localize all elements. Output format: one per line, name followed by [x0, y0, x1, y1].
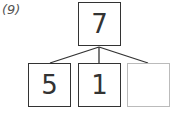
part-box-2: 1 — [78, 63, 121, 107]
whole-box: 7 — [78, 2, 121, 46]
part-box-1: 5 — [28, 63, 71, 107]
part-box-3-empty[interactable] — [127, 63, 170, 107]
